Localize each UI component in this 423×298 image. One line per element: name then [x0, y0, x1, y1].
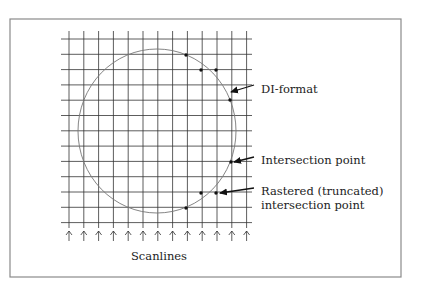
- point-marker: [214, 191, 217, 194]
- scanline-arrow-icon: [155, 231, 161, 241]
- point-marker: [184, 53, 187, 56]
- scanline-arrow-icon: [110, 231, 116, 241]
- intersection-points: [184, 53, 232, 209]
- scanline-arrow-icon: [184, 231, 190, 241]
- point-marker: [199, 68, 202, 71]
- annotation-label-rastered: Rastered (truncated): [261, 184, 383, 198]
- annotation-arrow: [231, 85, 254, 92]
- scanline-arrow-icon: [81, 231, 87, 241]
- scanline-arrow-icon: [244, 231, 250, 241]
- scanline-arrow-icon: [125, 231, 131, 241]
- grid: [61, 31, 252, 228]
- scanline-arrow-icon: [140, 231, 146, 241]
- point-marker: [228, 98, 231, 101]
- annotation-label-di-format: DI-format: [261, 82, 318, 96]
- scanline-arrow-icon: [96, 231, 102, 241]
- scanline-diagram: DI-formatIntersection pointRastered (tru…: [0, 0, 423, 298]
- scanline-arrow-icon: [170, 231, 176, 241]
- scanlines-label: Scanlines: [131, 249, 187, 263]
- scanline-arrow-icon: [229, 231, 235, 241]
- annotation-label-intersection: Intersection point: [261, 153, 366, 167]
- point-marker: [229, 160, 232, 163]
- point-marker: [214, 68, 217, 71]
- point-marker: [184, 206, 187, 209]
- point-marker: [199, 191, 202, 194]
- annotation-label-rastered-2: intersection point: [261, 198, 365, 212]
- scanline-arrows: [66, 231, 250, 241]
- scanline-arrow-icon: [66, 231, 72, 241]
- annotations: DI-formatIntersection pointRastered (tru…: [220, 82, 383, 212]
- scanline-arrow-icon: [199, 231, 205, 241]
- scanline-arrow-icon: [214, 231, 220, 241]
